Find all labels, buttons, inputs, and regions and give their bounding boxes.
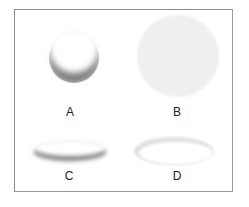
label-b: B bbox=[167, 105, 187, 119]
figure-art bbox=[0, 0, 249, 207]
label-d: D bbox=[167, 169, 187, 183]
shape-c-ellipse bbox=[34, 140, 106, 161]
shape-b-disc bbox=[137, 15, 219, 97]
shape-d-ring bbox=[134, 137, 214, 165]
label-a: A bbox=[60, 105, 80, 119]
label-c: C bbox=[59, 169, 79, 183]
shape-a-sphere bbox=[48, 23, 100, 84]
